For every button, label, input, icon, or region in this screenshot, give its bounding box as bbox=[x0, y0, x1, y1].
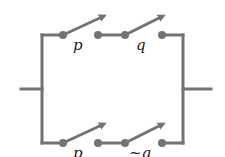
switch-label: ~q bbox=[129, 144, 151, 157]
switch-label: p bbox=[73, 144, 83, 157]
circuit-diagram: p q p ~q bbox=[0, 0, 225, 157]
switch-not-q-arm bbox=[125, 124, 163, 143]
switch-q-arm bbox=[125, 16, 163, 35]
switch-label: p bbox=[73, 36, 83, 54]
top-branch: p q bbox=[42, 16, 183, 54]
switch-label: q bbox=[136, 36, 146, 54]
bottom-branch: p ~q bbox=[42, 124, 183, 157]
